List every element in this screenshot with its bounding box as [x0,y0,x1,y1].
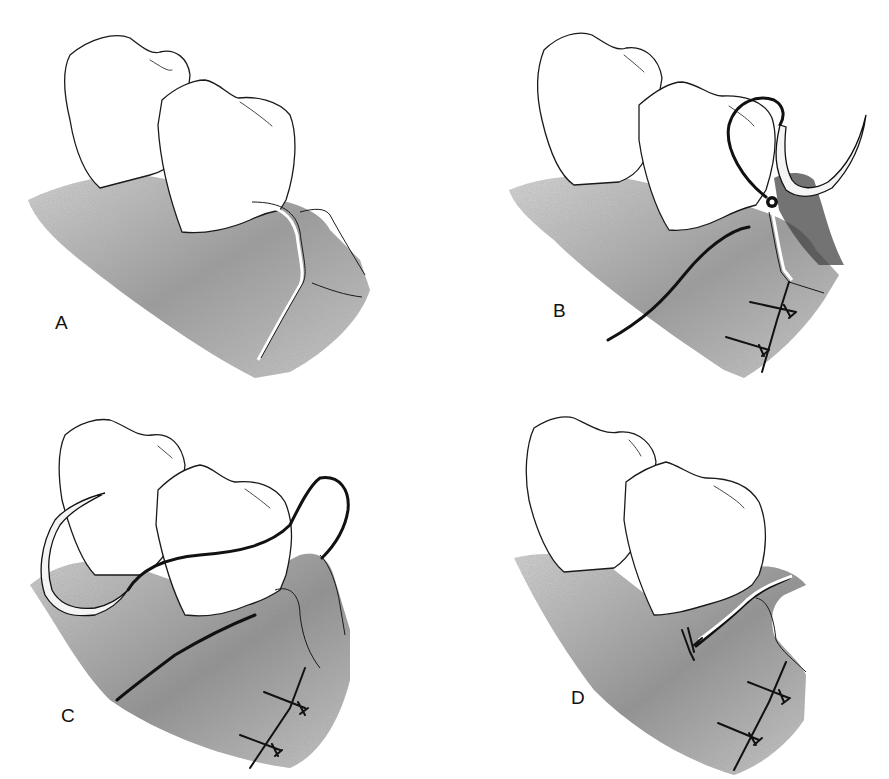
suturing-figure: A [0,0,889,779]
panel-d-illustration [444,390,889,779]
panel-label-b: B [553,301,566,320]
panel-c: C [0,390,444,779]
panel-d: D [444,390,889,779]
panel-b-illustration [444,0,889,390]
panel-label-c: C [61,706,75,725]
panel-label-d: D [571,688,585,707]
panel-label-a: A [55,313,68,332]
suture-knot-hole [770,200,775,205]
panel-a: A [0,0,444,390]
front-tooth [639,82,775,230]
panel-b: B [444,0,889,390]
suture-needle [776,115,866,197]
